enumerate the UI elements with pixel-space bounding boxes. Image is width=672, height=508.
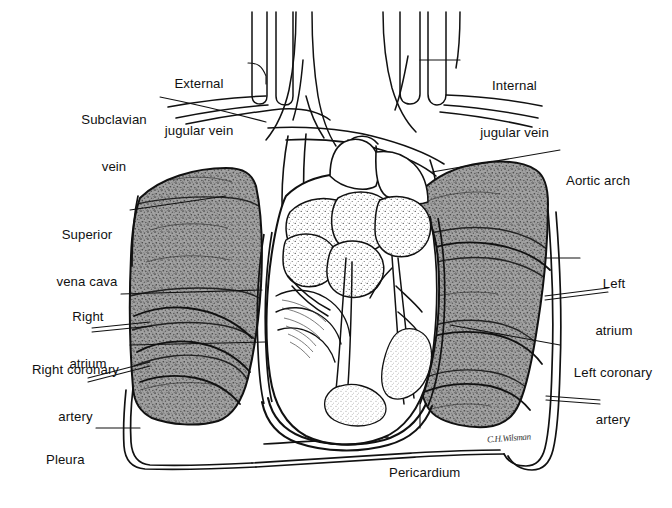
label-line-1: Left [587,276,641,292]
label-line-1: Left coronary [566,365,660,381]
label-line-2: vein [70,159,158,175]
label-line-2: jugular vein [468,125,561,141]
label-pleura: Pleura [46,421,106,499]
label-line-1: External [152,76,246,92]
label-line-1: Subclavian [70,112,158,128]
label-line-1: Pericardium [389,465,484,481]
anatomy-figure: External jugular vein Subclavian vein Su… [0,0,672,508]
label-internal-jugular-vein: Internal jugular vein [468,47,561,171]
label-line-1: Internal [468,78,561,94]
label-line-1: Right [58,309,118,325]
label-aortic-arch: Aortic arch [566,142,656,220]
label-line-2: jugular vein [152,123,246,139]
label-external-jugular-vein: External jugular vein [152,45,246,169]
label-line-2: artery [566,412,660,428]
label-pericardium: Pericardium [389,434,484,508]
label-line-1: Superior [47,227,127,243]
label-left-coronary-artery: Left coronary artery [566,334,660,458]
label-subclavian-vein: Subclavian vein [70,81,158,205]
label-line-1: Pleura [46,452,106,468]
label-line-1: Right coronary [26,362,125,378]
label-line-1: Aortic arch [566,173,656,189]
